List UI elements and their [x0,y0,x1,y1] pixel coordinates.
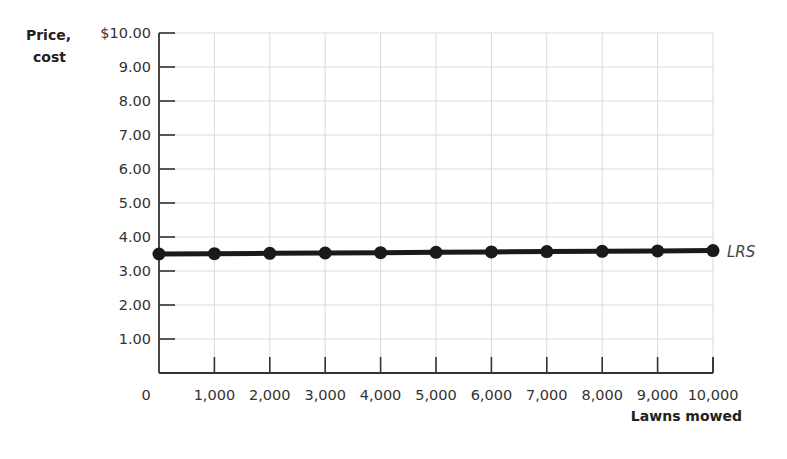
x-tick-label: 9,000 [637,387,679,403]
x-axis-ticks: 01,0002,0003,0004,0005,0006,0007,0008,00… [141,357,738,403]
lrs-series [153,244,720,260]
lrs-data-point [707,244,720,257]
lrs-data-point [651,244,664,257]
lrs-series-label: LRS [727,243,756,261]
x-tick-label: 7,000 [526,387,568,403]
x-tick-label: 1,000 [194,387,236,403]
lrs-chart: 1.002.003.004.005.006.007.008.009.00$10.… [0,0,787,459]
x-tick-label: 0 [141,387,150,403]
y-tick-label: $10.00 [100,25,151,41]
y-tick-label: 6.00 [119,161,151,177]
lrs-data-point [374,246,387,259]
x-tick-label: 3,000 [304,387,346,403]
lrs-data-point [208,247,221,260]
y-tick-label: 2.00 [119,297,151,313]
x-tick-label: 8,000 [581,387,623,403]
x-tick-label: 10,000 [688,387,739,403]
x-tick-label: 2,000 [249,387,291,403]
y-tick-label: 8.00 [119,93,151,109]
grid-lines [159,33,713,373]
lrs-data-point [430,246,443,259]
x-tick-label: 6,000 [471,387,513,403]
x-axis-title: Lawns mowed [631,408,742,424]
lrs-data-point [540,245,553,258]
y-tick-label: 1.00 [119,331,151,347]
y-tick-label: 4.00 [119,229,151,245]
y-axis-ticks: 1.002.003.004.005.006.007.008.009.00$10.… [100,25,175,347]
y-axis-title-line1: Price, [26,27,71,43]
lrs-data-point [263,247,276,260]
y-tick-label: 3.00 [119,263,151,279]
lrs-data-point [485,245,498,258]
y-tick-label: 7.00 [119,127,151,143]
y-axis-title-line2: cost [33,49,66,65]
x-tick-label: 4,000 [360,387,402,403]
lrs-data-point [596,245,609,258]
lrs-data-point [319,246,332,259]
y-tick-label: 9.00 [119,59,151,75]
lrs-data-point [153,248,166,261]
x-tick-label: 5,000 [415,387,457,403]
y-tick-label: 5.00 [119,195,151,211]
